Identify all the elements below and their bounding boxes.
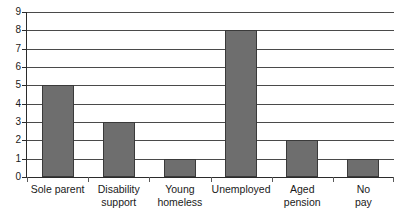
y-axis-tick-label: 6 <box>15 62 21 72</box>
y-axis-tick-label: 2 <box>15 135 21 145</box>
y-axis-tick-label: 1 <box>15 154 21 164</box>
y-axis-tick-mark <box>22 49 26 50</box>
x-axis-tick-mark <box>393 177 394 182</box>
x-axis-tick-mark <box>27 177 28 182</box>
x-axis-category-label: Aged pension <box>272 183 333 209</box>
y-axis-tick-mark <box>22 12 26 13</box>
bar-series-group <box>27 12 394 177</box>
y-axis-tick-label-group: 0123456789 <box>0 0 24 190</box>
bar[interactable] <box>347 159 379 177</box>
x-axis-category-label: Sole parent <box>27 183 88 196</box>
y-axis-tick-mark <box>22 122 26 123</box>
y-axis-tick-mark <box>22 30 26 31</box>
x-axis-tick-mark <box>211 177 212 182</box>
x-axis-tick-mark <box>272 177 273 182</box>
bar[interactable] <box>103 122 135 177</box>
bar[interactable] <box>225 30 257 177</box>
x-axis-tick-mark-group <box>27 177 394 182</box>
bar[interactable] <box>286 140 318 177</box>
bar[interactable] <box>42 85 74 177</box>
y-axis-tick-label: 8 <box>15 25 21 35</box>
x-axis-tick-mark <box>88 177 89 182</box>
y-axis-tick-mark <box>22 177 26 178</box>
bar[interactable] <box>164 159 196 177</box>
y-axis-tick-mark <box>22 140 26 141</box>
y-axis-tick-mark <box>22 104 26 105</box>
x-axis-category-label: No pay <box>333 183 394 209</box>
x-axis-category-label: Unemployed <box>211 183 272 196</box>
y-axis-tick-mark <box>22 85 26 86</box>
y-axis-tick-label: 5 <box>15 80 21 90</box>
y-axis-tick-mark <box>22 67 26 68</box>
x-axis-tick-mark <box>149 177 150 182</box>
x-axis-tick-mark <box>333 177 334 182</box>
y-axis-tick-mark <box>22 159 26 160</box>
y-axis-tick-label: 0 <box>15 172 21 182</box>
bar-chart-figure: 0123456789 Sole parentDisability support… <box>0 0 410 218</box>
x-axis-category-label: Disability support <box>88 183 149 209</box>
plot-area <box>27 12 394 177</box>
y-axis-tick-label: 9 <box>15 7 21 17</box>
y-axis-tick-label: 4 <box>15 99 21 109</box>
x-axis-category-label-group: Sole parentDisability supportYoung homel… <box>27 183 394 217</box>
x-axis-category-label: Young homeless <box>149 183 210 209</box>
y-axis-tick-label: 7 <box>15 44 21 54</box>
y-axis-tick-label: 3 <box>15 117 21 127</box>
